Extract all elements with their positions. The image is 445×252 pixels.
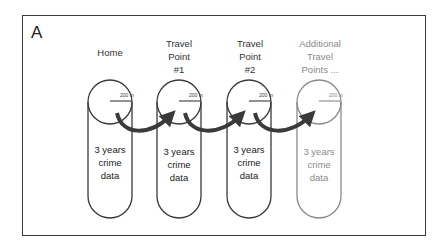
radius-label-additional: 200 m — [329, 92, 343, 98]
radius-label-home: 200 m — [120, 92, 134, 98]
crime-data-label-tp1: 3 years crime data — [149, 145, 209, 184]
radius-label-tp2: 200 m — [259, 92, 273, 98]
crime-data-label-additional: 3 years crime data — [289, 145, 349, 184]
crime-data-label-tp2: 3 years crime data — [219, 143, 279, 182]
crime-data-label-home: 3 years crime data — [80, 143, 140, 182]
radius-label-tp1: 200 m — [189, 92, 203, 98]
diagram-shapes: 200 m 200 m 200 m 200 m — [0, 0, 445, 252]
